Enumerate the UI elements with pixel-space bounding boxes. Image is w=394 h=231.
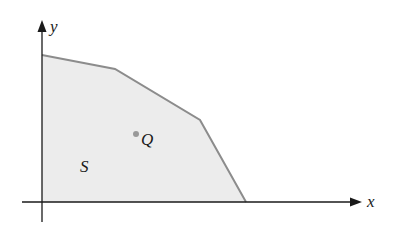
- point-q-label: Q: [141, 130, 153, 149]
- diagram-canvas: y x Q S: [0, 0, 394, 231]
- y-axis-label: y: [48, 17, 58, 36]
- x-axis-arrow-icon: [350, 198, 362, 207]
- x-axis-label: x: [366, 192, 375, 211]
- region-s-label: S: [80, 157, 89, 176]
- region-s: [42, 55, 246, 202]
- y-axis-arrow-icon: [38, 20, 47, 32]
- point-q-dot: [133, 131, 139, 137]
